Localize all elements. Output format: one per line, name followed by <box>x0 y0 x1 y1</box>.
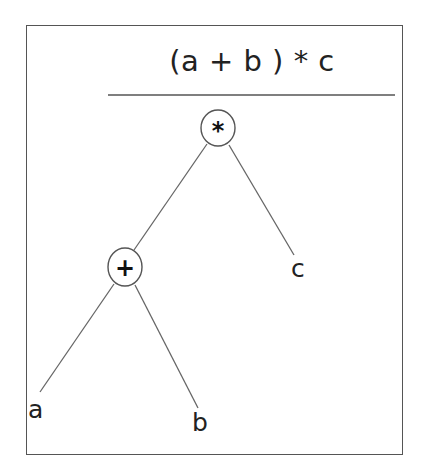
leaf-b: b <box>192 410 208 435</box>
node-times-label: * <box>206 119 230 143</box>
edge-plus-a <box>40 284 114 392</box>
edge-times-plus <box>134 144 207 250</box>
expression-tree-graphic <box>0 0 424 476</box>
edge-times-c <box>229 145 294 255</box>
edge-plus-b <box>135 285 198 408</box>
leaf-a: a <box>28 397 43 422</box>
node-plus-label: + <box>113 256 137 280</box>
leaf-c: c <box>291 256 305 281</box>
